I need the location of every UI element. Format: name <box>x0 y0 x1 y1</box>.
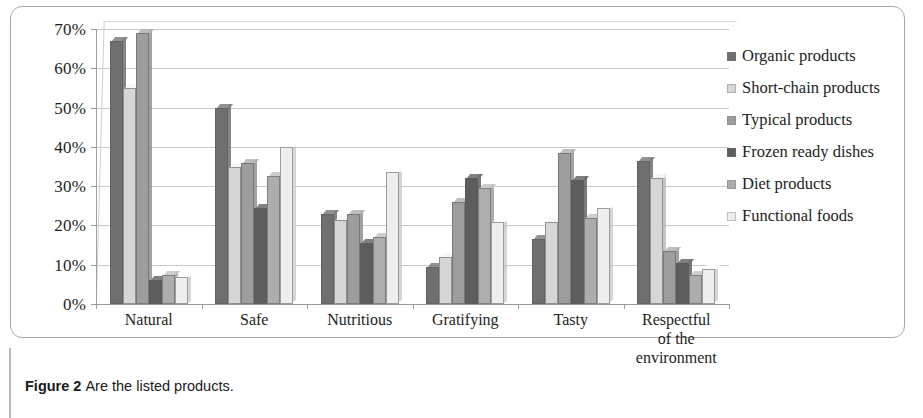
bar-face <box>650 178 663 304</box>
legend-item[interactable]: Short-chain products <box>727 72 907 104</box>
bar <box>215 108 228 304</box>
bar-face <box>545 222 558 305</box>
x-axis-category-label: Respectfulof theenvironment <box>624 310 730 367</box>
bar-group <box>624 29 730 304</box>
legend-swatch-icon <box>727 180 736 189</box>
bar <box>149 280 162 304</box>
bar <box>123 88 136 304</box>
bar <box>241 163 254 304</box>
x-axis-category-label: Safe <box>202 310 308 329</box>
x-axis-category-label-line: Tasty <box>518 310 624 329</box>
bar-face <box>123 88 136 304</box>
bar <box>584 218 597 304</box>
x-axis-tick-mark <box>729 304 730 309</box>
y-axis-tick-label: 30% <box>24 178 86 195</box>
x-axis-category-label-line: Safe <box>202 310 308 329</box>
bar-face <box>584 218 597 304</box>
bar-group <box>518 29 624 304</box>
bar <box>175 277 188 305</box>
x-axis-category-label: Natural <box>96 310 202 329</box>
y-axis-tick-label: 70% <box>24 21 86 38</box>
bar-face <box>637 161 650 304</box>
figure-container: 70%60%50%40%30%20%10%0% NaturalSafeNutri… <box>0 0 923 418</box>
bar <box>637 161 650 304</box>
legend-item[interactable]: Typical products <box>727 104 907 136</box>
legend-label: Short-chain products <box>742 80 880 97</box>
legend-item[interactable]: Diet products <box>727 168 907 200</box>
figure-caption-number: Figure 2 <box>25 378 81 394</box>
bar <box>347 214 360 304</box>
x-axis-category-label-line: Nutritious <box>307 310 413 329</box>
bar-face <box>558 153 571 304</box>
bar-face <box>386 172 399 304</box>
x-axis-category-label-line: environment <box>624 348 730 367</box>
bar <box>360 243 373 304</box>
x-axis-tick-mark <box>624 304 625 309</box>
bar-face <box>175 277 188 305</box>
figure-caption: Figure 2 Are the listed products. <box>25 378 234 394</box>
bar-group <box>96 29 202 304</box>
bar-top-face <box>177 273 193 277</box>
bar <box>597 208 610 304</box>
bar-side-face <box>504 217 507 302</box>
bar <box>228 167 241 305</box>
y-axis-tick-label: 60% <box>24 60 86 77</box>
bar-side-face <box>399 168 402 302</box>
bar-face <box>597 208 610 304</box>
bar-face <box>439 257 452 304</box>
bar-face <box>426 267 439 304</box>
bar <box>689 275 702 304</box>
x-axis-category-label-line: of the <box>624 329 730 348</box>
bar <box>558 153 571 304</box>
bar-top-face <box>599 204 615 208</box>
bar-face <box>228 167 241 305</box>
y-axis-tick-label: 40% <box>24 138 86 155</box>
legend-swatch-icon <box>727 116 736 125</box>
legend-item[interactable]: Functional foods <box>727 200 907 232</box>
legend-swatch-icon <box>727 52 736 61</box>
x-axis-tick-mark <box>518 304 519 309</box>
bar <box>267 176 280 304</box>
chart-legend: Organic productsShort-chain productsTypi… <box>727 40 907 232</box>
plot-area <box>96 29 729 304</box>
x-axis-tick-mark <box>96 304 97 309</box>
bar-face <box>347 214 360 304</box>
bar <box>162 275 175 304</box>
x-axis-tick-mark <box>202 304 203 309</box>
bar-side-face <box>149 29 152 302</box>
x-axis-category-label: Tasty <box>518 310 624 329</box>
bar <box>386 172 399 304</box>
bar-face <box>215 108 228 304</box>
y-axis-tick-label: 20% <box>24 217 86 234</box>
bar <box>452 202 465 304</box>
bar-face <box>571 180 584 304</box>
y-axis-tick-labels: 70%60%50%40%30%20%10%0% <box>24 7 86 339</box>
bar <box>491 222 504 305</box>
bar-face <box>702 269 715 304</box>
legend-label: Diet products <box>742 176 831 193</box>
legend-label: Organic products <box>742 48 856 65</box>
bar-face <box>110 41 123 304</box>
bar-side-face <box>293 143 296 302</box>
bar <box>663 251 676 304</box>
bar <box>321 214 334 304</box>
bar-face <box>136 33 149 304</box>
bar-top-face <box>112 37 128 41</box>
bar-group <box>307 29 413 304</box>
bar-series-container <box>96 29 729 304</box>
bar <box>571 180 584 304</box>
legend-swatch-icon <box>727 212 736 221</box>
bar <box>334 220 347 304</box>
bar-top-face <box>138 29 154 33</box>
legend-item[interactable]: Organic products <box>727 40 907 72</box>
bar-face <box>162 275 175 304</box>
y-axis-tick-label: 10% <box>24 256 86 273</box>
plot-wrapper: 70%60%50%40%30%20%10%0% NaturalSafeNutri… <box>11 7 906 339</box>
bar-face <box>360 243 373 304</box>
bar-top-face <box>560 149 576 153</box>
legend-item[interactable]: Frozen ready dishes <box>727 136 907 168</box>
bar-group <box>413 29 519 304</box>
legend-label: Typical products <box>742 112 852 129</box>
bar <box>545 222 558 305</box>
bar-face <box>491 222 504 305</box>
